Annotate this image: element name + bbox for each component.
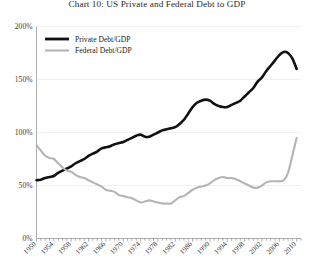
y-axis-tick-label: 200% [15,22,33,31]
x-axis-tick-label: 1962 [74,240,90,256]
x-axis-tick-label: 1990 [196,240,212,256]
x-axis-tick-label: 1986 [178,240,194,256]
x-axis-tick-label: 1974 [126,240,142,256]
x-axis-tick-label: 1982 [161,240,177,256]
y-axis-tick-label: 50% [19,181,34,190]
x-tick-labels-group: 1950195419581962196619701974197819821986… [22,240,298,256]
y-tick-labels-group: 0%50%100%150%200% [15,22,33,243]
x-axis-tick-label: 2002 [248,240,264,256]
chart-page: Chart 10: US Private and Federal Debt to… [0,0,314,270]
series-line [37,52,297,180]
x-axis-tick-label: 1958 [57,240,73,256]
x-axis-tick-label: 2006 [265,240,281,256]
x-axis-tick-label: 1970 [109,240,125,256]
chart-legend: Private Debt/GDPFederal Debt/GDP [45,35,132,56]
x-axis-tick-label: 1998 [230,240,246,256]
legend-label: Federal Debt/GDP [75,46,132,55]
legend-label: Private Debt/GDP [75,35,130,44]
x-axis-tick-label: 1966 [91,240,107,256]
x-axis-tick-label: 1978 [144,240,160,256]
debt-to-gdp-line-chart: 0%50%100%150%200% 1950195419581962196619… [0,0,314,270]
series-group [37,52,297,204]
x-axis-tick-label: 1994 [213,240,229,256]
y-axis-tick-label: 150% [15,75,33,84]
series-line [37,138,297,204]
x-axis-tick-label: 1954 [39,240,55,256]
x-axis-tick-label: 2010 [282,240,298,256]
y-axis-tick-label: 100% [15,128,33,137]
